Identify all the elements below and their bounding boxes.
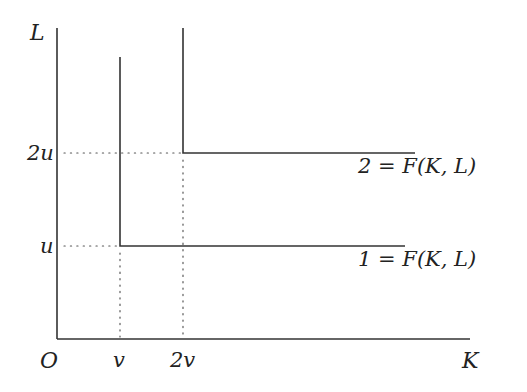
x-axis-label: K [461, 348, 480, 373]
axes [57, 28, 470, 339]
isoquant-1 [120, 57, 405, 246]
tick-y-u: u [40, 234, 54, 258]
isoquant-1-label: 1 = F(K, L) [358, 247, 476, 271]
isoquant-diagram: L K O v 2v u 2u 2 = F(K, L) 1 = F(K, L) [0, 0, 527, 392]
y-axis-label: L [29, 20, 45, 45]
origin-label: O [40, 348, 58, 373]
guide-lines [64, 153, 183, 337]
tick-y-2u: 2u [26, 141, 54, 165]
isoquant-2 [183, 28, 415, 153]
tick-x-v: v [113, 348, 125, 372]
tick-x-2v: 2v [169, 348, 195, 372]
isoquant-2-label: 2 = F(K, L) [357, 154, 476, 178]
